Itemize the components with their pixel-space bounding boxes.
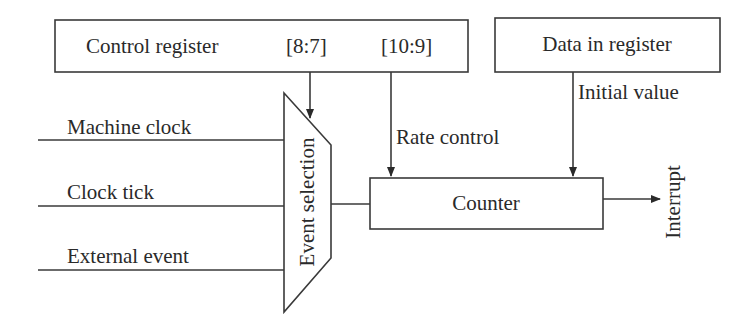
control-register-label: Control register xyxy=(86,34,218,58)
control-register-field-8-7: [8:7] xyxy=(286,34,327,58)
control-register-field-10-9: [10:9] xyxy=(381,34,432,58)
input-machine-clock: Machine clock xyxy=(38,115,284,140)
interrupt-label: Interrupt xyxy=(661,165,685,239)
input-clock-tick: Clock tick xyxy=(38,180,284,206)
machine-clock-label: Machine clock xyxy=(67,115,192,139)
clock-tick-label: Clock tick xyxy=(67,180,154,204)
data-in-register-block: Data in register xyxy=(495,18,720,72)
input-external-event: External event xyxy=(38,244,284,270)
event-selection-mux: Event selection xyxy=(284,93,331,312)
external-event-label: External event xyxy=(67,244,189,268)
interrupt-signal: Interrupt xyxy=(603,165,685,239)
initial-value-signal: Initial value xyxy=(573,72,679,176)
counter-label: Counter xyxy=(452,191,520,215)
rate-control-signal: Rate control xyxy=(391,72,499,176)
data-in-register-label: Data in register xyxy=(542,32,671,56)
rate-control-label: Rate control xyxy=(396,125,499,149)
event-selection-label: Event selection xyxy=(295,137,319,266)
initial-value-label: Initial value xyxy=(578,80,679,104)
control-register-block: Control register [8:7] [10:9] xyxy=(55,20,468,72)
timer-block-diagram: Control register [8:7] [10:9] Data in re… xyxy=(0,0,753,331)
counter-block: Counter xyxy=(370,178,603,229)
